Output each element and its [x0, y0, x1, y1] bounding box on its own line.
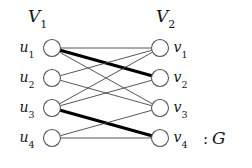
node-label-v1-subscript: 1 — [181, 49, 187, 60]
node-label-v2-subscript: 2 — [181, 79, 187, 90]
node-label-v1: v1 — [174, 40, 188, 57]
graph-node-u3 — [44, 100, 61, 117]
set-label-v1-name: V — [28, 6, 40, 26]
node-label-u1-name: u — [20, 39, 29, 55]
node-label-u1: u1 — [20, 40, 35, 57]
node-label-u2-subscript: 2 — [29, 79, 35, 90]
set-label-v1: V1 — [28, 8, 47, 28]
caption-colon: : — [203, 130, 208, 148]
graph-node-v2 — [152, 70, 169, 87]
caption-graph-name: G — [212, 128, 226, 148]
graph-node-v3 — [152, 100, 169, 117]
bipartite-graph-figure: V1 V2 u1u2u3u4v1v2v3v4 :G — [0, 0, 252, 168]
graph-node-v4 — [152, 130, 169, 147]
node-label-u4-subscript: 4 — [29, 139, 35, 150]
node-label-v4-subscript: 4 — [181, 139, 187, 150]
set-label-v1-subscript: 1 — [40, 18, 47, 31]
set-label-v2: V2 — [156, 8, 175, 28]
set-label-v2-name: V — [156, 6, 168, 26]
node-label-u4-name: u — [20, 129, 29, 145]
graph-name-caption: :G — [203, 130, 226, 147]
graph-node-u1 — [44, 40, 61, 57]
edge-layer — [59, 48, 152, 138]
node-label-u2-name: u — [20, 69, 29, 85]
node-label-u3-name: u — [20, 99, 29, 115]
node-label-v4: v4 — [174, 130, 188, 147]
node-label-v3-subscript: 3 — [181, 109, 187, 120]
node-label-v3: v3 — [174, 100, 188, 117]
node-label-u4: u4 — [20, 130, 35, 147]
node-label-u3-subscript: 3 — [29, 109, 35, 120]
node-label-v2: v2 — [174, 70, 188, 87]
graph-node-v1 — [152, 40, 169, 57]
node-label-u3: u3 — [20, 100, 35, 117]
graph-node-u4 — [44, 130, 61, 147]
node-label-u1-subscript: 1 — [29, 49, 35, 60]
set-label-v2-subscript: 2 — [168, 18, 175, 31]
node-label-u2: u2 — [20, 70, 35, 87]
graph-node-u2 — [44, 70, 61, 87]
